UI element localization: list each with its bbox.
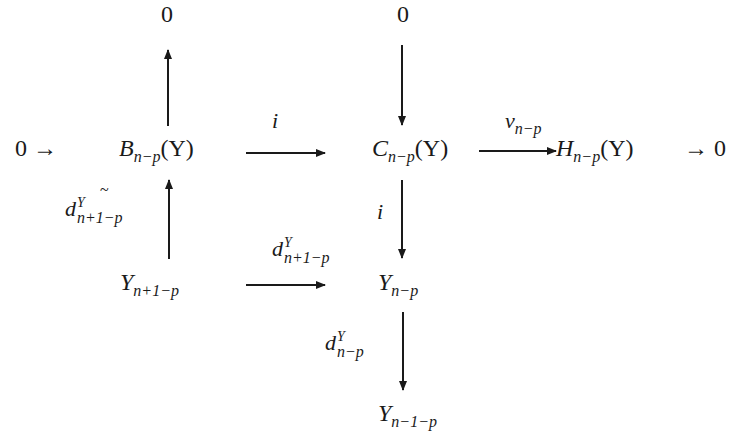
node-Y-np-sub: n−p bbox=[391, 282, 418, 299]
node-B-base: B bbox=[119, 135, 134, 161]
arrow-left-glyph: → bbox=[33, 135, 57, 161]
tilde-accent: ~ bbox=[100, 181, 109, 199]
node-H-sub: n−p bbox=[573, 148, 600, 165]
node-Y-np-base: Y bbox=[378, 269, 391, 295]
label-nu-base: ν bbox=[505, 108, 515, 133]
label-C-to-H: νn−p bbox=[505, 110, 542, 132]
node-C: Cn−p(Y) bbox=[372, 136, 448, 160]
label-d-base: d bbox=[65, 196, 76, 221]
arrow-right-glyph: → bbox=[684, 135, 708, 161]
label-B-to-C: i bbox=[272, 110, 278, 132]
label-nu-sub: n−p bbox=[515, 120, 542, 137]
zero-right: → 0 bbox=[684, 136, 726, 160]
node-Y-n-1-p-sub: n−1−p bbox=[391, 413, 437, 430]
node-B-sub: n−p bbox=[134, 148, 161, 165]
zero-right-value: 0 bbox=[714, 135, 726, 161]
node-Y-np: Yn−p bbox=[378, 270, 418, 294]
node-C-base: C bbox=[372, 135, 388, 161]
label-d3-sup: Y bbox=[337, 330, 364, 344]
zero-top-left: 0 bbox=[161, 2, 173, 26]
label-i-vertical: i bbox=[377, 199, 383, 224]
node-H: Hn−p(Y) bbox=[556, 136, 633, 160]
node-Y-n1p-sub: n+1−p bbox=[133, 282, 179, 299]
node-C-sub: n−p bbox=[388, 148, 415, 165]
label-Ynp-to-Yn1p: dYn−p bbox=[325, 330, 364, 360]
zero-left: 0 → bbox=[15, 136, 57, 160]
label-d3-base: d bbox=[325, 330, 336, 355]
label-d3-scripts: Yn−p bbox=[337, 330, 364, 360]
zero-top-right: 0 bbox=[397, 2, 409, 26]
node-Y-n-1-p-base: Y bbox=[378, 400, 391, 426]
label-i-top: i bbox=[272, 108, 278, 133]
node-H-base: H bbox=[556, 135, 573, 161]
label-d-scripts: Yn+1−p bbox=[77, 196, 123, 226]
label-d2-base: d bbox=[272, 236, 283, 261]
label-C-to-Ynp: i bbox=[377, 201, 383, 223]
label-d3-sub: n−p bbox=[337, 344, 364, 360]
label-d2-sup: Y bbox=[284, 236, 330, 250]
zero-left-value: 0 bbox=[15, 135, 27, 161]
node-C-arg: (Y) bbox=[415, 135, 448, 161]
node-B: Bn−p(Y) bbox=[119, 136, 194, 160]
node-Y-n1p: Yn+1−p bbox=[120, 270, 179, 294]
node-H-arg: (Y) bbox=[600, 135, 633, 161]
label-d2-scripts: Yn+1−p bbox=[284, 236, 330, 266]
label-Y-to-B: dYn+1−p bbox=[65, 196, 123, 226]
node-B-arg: (Y) bbox=[160, 135, 193, 161]
node-Y-n-1-p: Yn−1−p bbox=[378, 401, 437, 425]
label-d2-sub: n+1−p bbox=[284, 250, 330, 266]
label-d-sub: n+1−p bbox=[77, 210, 123, 226]
node-Y-n1p-base: Y bbox=[120, 269, 133, 295]
label-Yn1p-to-Ynp: dYn+1−p bbox=[272, 236, 330, 266]
